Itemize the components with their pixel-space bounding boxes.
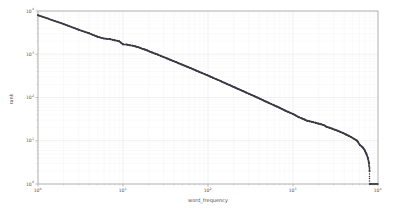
svg-text:1: 1 [32, 137, 34, 141]
svg-text:0: 0 [32, 180, 34, 184]
zipf-log-log-scatter-plot: 100101102103104 100101102103104 word_fre… [0, 0, 393, 211]
chart-figure: 100101102103104 100101102103104 word_fre… [0, 0, 393, 211]
svg-text:10: 10 [26, 95, 32, 100]
x-axis-title: word_frequency [188, 197, 228, 204]
svg-text:10: 10 [26, 52, 32, 57]
svg-text:4: 4 [380, 187, 382, 191]
svg-text:4: 4 [32, 7, 34, 11]
svg-text:2: 2 [210, 187, 212, 191]
svg-text:3: 3 [32, 51, 34, 55]
svg-text:10: 10 [26, 182, 32, 187]
svg-text:2: 2 [32, 94, 34, 98]
svg-text:0: 0 [40, 187, 42, 191]
svg-text:10: 10 [26, 138, 32, 143]
svg-text:1: 1 [125, 187, 127, 191]
svg-text:10: 10 [26, 9, 32, 14]
plot-background [0, 0, 393, 211]
y-axis-title: rank [8, 93, 14, 104]
svg-text:3: 3 [295, 187, 297, 191]
